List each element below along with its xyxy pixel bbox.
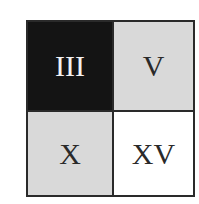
cell-label: V: [143, 49, 165, 83]
cell-top-right: V: [114, 22, 193, 110]
cell-bottom-left: X: [28, 112, 112, 195]
cell-label: III: [55, 49, 85, 83]
cell-bottom-right: XV: [114, 112, 193, 195]
cell-label: X: [59, 137, 81, 171]
cell-label: XV: [132, 137, 175, 171]
cell-top-left: III: [28, 22, 112, 110]
roman-numeral-grid: III V X XV: [26, 20, 195, 197]
